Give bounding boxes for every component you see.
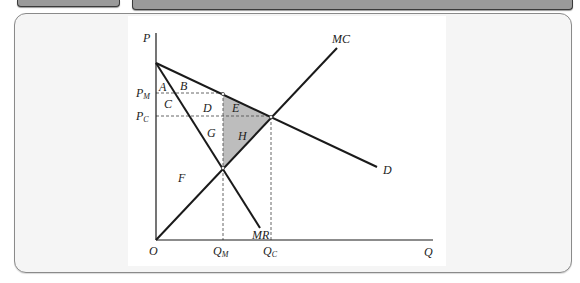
area-e-label: E — [231, 101, 240, 115]
area-d-label: D — [202, 101, 212, 115]
qc-label: QC — [263, 244, 278, 259]
mc-curve-label: MC — [331, 32, 351, 46]
origin-label: O — [149, 244, 158, 258]
area-h-label: H — [237, 129, 248, 143]
area-c-label: C — [164, 97, 173, 111]
area-b-label: B — [180, 79, 188, 93]
demand-curve-label: D — [382, 163, 392, 177]
area-g-label: G — [207, 126, 216, 140]
competitive-equilibrium-point — [269, 115, 272, 118]
monopoly-price-point — [221, 92, 224, 95]
x-axis-label: Q — [424, 245, 433, 259]
pm-label: PM — [135, 86, 151, 101]
qm-label: QM — [213, 244, 230, 259]
mr-curve-label: MR — [251, 228, 270, 242]
pc-label: PC — [135, 109, 149, 124]
area-f-label: F — [177, 171, 186, 185]
mr-mc-intersection-point — [221, 166, 224, 169]
y-axis-label: P — [142, 31, 151, 45]
monopoly-diagram: P Q O PM PC QM QC MC D MR A B C D E F G … — [0, 0, 580, 283]
area-a-label: A — [158, 80, 167, 94]
